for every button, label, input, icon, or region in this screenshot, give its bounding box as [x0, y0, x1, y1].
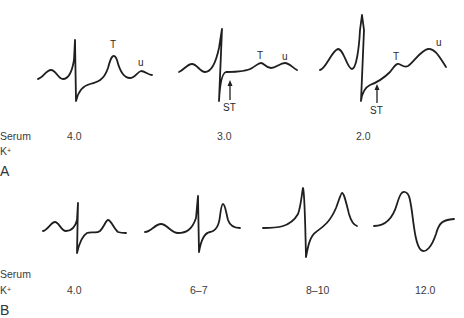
- ecg-trace-b-6-7: [145, 196, 240, 252]
- u-wave-label-a1: u: [138, 58, 144, 68]
- st-arrowhead-a2: [228, 80, 233, 86]
- t-wave-label-a1: T: [110, 40, 116, 50]
- serum-k-value-b4: 12.0: [415, 285, 435, 296]
- st-label-a2: ST: [223, 103, 236, 113]
- ecg-trace-b-8-10: [263, 188, 357, 257]
- u-wave-label-a2: u: [282, 52, 288, 62]
- ecg-trace-a-4-0: [38, 40, 152, 101]
- u-wave-label-a3: u: [436, 38, 442, 48]
- serum-k-value-b3: 8–10: [306, 285, 329, 296]
- potassium-label-b: K+: [0, 285, 11, 296]
- potassium-symbol-b: K: [0, 284, 7, 296]
- potassium-charge-a: +: [7, 147, 11, 154]
- serum-k-value-a3: 2.0: [356, 131, 371, 142]
- st-arrowhead-a3: [375, 84, 380, 90]
- serum-k-value-b1: 4.0: [67, 285, 82, 296]
- panel-label-a: A: [0, 164, 9, 178]
- st-label-a3: ST: [370, 106, 383, 116]
- t-wave-label-a3: T: [393, 52, 399, 62]
- t-wave-label-a2: T: [257, 51, 263, 61]
- serum-k-value-a1: 4.0: [67, 131, 82, 142]
- potassium-label-a: K+: [0, 146, 11, 157]
- serum-k-value-b2: 6–7: [190, 285, 208, 296]
- serum-label-b: Serum: [0, 269, 31, 280]
- ecg-trace-b-4-0: [43, 203, 126, 253]
- panel-label-b: B: [0, 303, 9, 317]
- potassium-charge-b: +: [7, 286, 11, 293]
- ecg-trace-a-2-0: [320, 15, 446, 101]
- serum-label-a: Serum: [0, 131, 31, 142]
- ecg-diagram: [0, 0, 464, 318]
- ecg-trace-b-12-0: [374, 192, 454, 251]
- serum-k-value-a2: 3.0: [217, 131, 232, 142]
- potassium-symbol-a: K: [0, 145, 7, 157]
- ecg-trace-a-3-0: [179, 29, 297, 101]
